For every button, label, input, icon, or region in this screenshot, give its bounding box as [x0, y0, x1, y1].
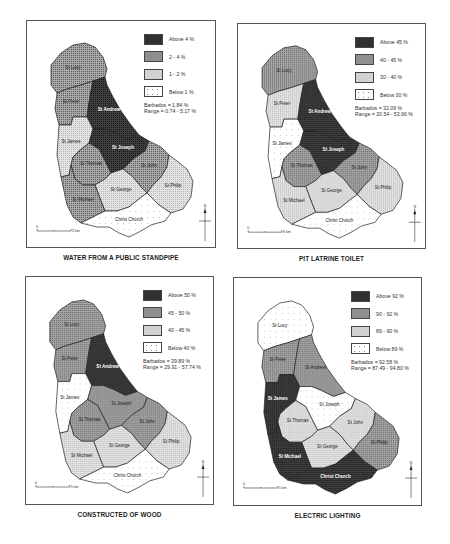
summary-stats: Barbados = 92.58 %Range = 87.49 - 94.80 …: [351, 359, 409, 372]
legend-label: 40 - 45 %: [168, 327, 190, 333]
parish-label: St Michael: [72, 197, 93, 202]
parish-label: Christ Church: [115, 217, 144, 222]
legend-item: 45 - 50 %: [143, 306, 201, 320]
summary-stats: Barbados = 32.09 %Range = 20.54 - 53.96 …: [355, 105, 413, 118]
legend-item: Above 50 %: [143, 288, 201, 302]
legend-label: 40 - 45 %: [380, 57, 402, 63]
parish-label: St Joseph: [319, 402, 340, 407]
legend-label: 45 - 50 %: [168, 310, 190, 316]
parish-label: Christ Church: [326, 218, 354, 223]
parish-label: Christ Church: [114, 473, 142, 478]
svg-text:N: N: [413, 205, 416, 209]
legend-swatch: [143, 307, 162, 318]
parish-label: St Andrew: [96, 364, 119, 369]
north-arrow-icon: N: [409, 205, 421, 242]
map-legend: Above 50 %45 - 50 %40 - 45 %Below 40 %Ba…: [143, 288, 201, 371]
parish-label: St James: [60, 395, 80, 400]
svg-text:N: N: [204, 204, 207, 208]
legend-label: Below 40 %: [168, 345, 195, 351]
north-arrow-icon: N: [197, 460, 209, 497]
parish-label: St Lucy: [65, 65, 81, 70]
parish-label: St George: [317, 444, 338, 449]
legend-swatch: [351, 308, 370, 319]
legend-item: Above 4 %: [144, 32, 196, 46]
legend-label: 90 - 92 %: [376, 311, 398, 317]
summary-stats: Barbados = 39.89 %Range = 29.91 - 57.74 …: [143, 358, 201, 371]
parish-label: St Andrew: [308, 109, 331, 114]
legend-label: Above 45 %: [380, 39, 408, 45]
legend-item: 89 - 90 %: [351, 324, 409, 338]
parish-label: St George: [111, 187, 132, 192]
legend-label: Below 89 %: [376, 346, 403, 352]
svg-text:5 km: 5 km: [279, 486, 287, 490]
parish-label: St Lucy: [64, 322, 80, 327]
svg-text:5 km: 5 km: [71, 485, 79, 489]
parish-label: St John: [141, 163, 157, 168]
value-range: Range = 87.49 - 94.80 %: [351, 365, 409, 371]
parish-label: St John: [352, 165, 368, 170]
map-caption: WATER FROM A PUBLIC STANDPIPE: [26, 254, 216, 261]
legend-label: Above 92 %: [376, 293, 404, 299]
parish-label: St James: [272, 141, 292, 146]
legend-swatch: [355, 72, 374, 83]
legend-label: Below 30 %: [380, 92, 407, 98]
legend-item: Below 40 %: [143, 341, 201, 355]
legend-item: 2 - 4 %: [144, 50, 196, 64]
parish-label: St Michael: [71, 453, 92, 458]
legend-swatch: [355, 89, 374, 100]
value-range: Range = 29.91 - 57.74 %: [143, 364, 201, 370]
legend-label: 2 - 4 %: [169, 54, 185, 60]
svg-text:N: N: [202, 460, 205, 464]
parish-label: St Peter: [274, 101, 291, 106]
svg-text:0: 0: [247, 226, 249, 230]
legend-label: 30 - 40 %: [380, 74, 402, 80]
north-arrow-icon: N: [199, 204, 211, 241]
svg-text:0: 0: [36, 225, 38, 229]
parish-label: St Lucy: [272, 323, 288, 328]
parish-label: St Joseph: [112, 145, 134, 150]
map-frame: St LucySt PeterSt AndrewSt JamesSt Josep…: [25, 276, 214, 505]
legend-swatch: [351, 343, 370, 354]
parish-label: St Joseph: [323, 147, 345, 152]
parish-label: St Thomas: [287, 418, 310, 423]
north-arrow-icon: N: [405, 461, 417, 498]
scale-bar: 05 km: [247, 226, 290, 234]
legend-swatch: [355, 37, 374, 48]
legend-item: Below 89 %: [351, 342, 409, 356]
map-frame: St LucySt PeterSt AndrewSt JamesSt Josep…: [26, 20, 216, 248]
scale-bar: 05 km: [243, 482, 287, 490]
parish-label: St Thomas: [291, 163, 314, 168]
legend-item: 90 - 92 %: [351, 307, 409, 321]
map-caption: PIT LATRINE TOILET: [237, 255, 426, 262]
legend-label: Above 50 %: [168, 292, 196, 298]
map-legend: Above 4 %2 - 4 %1 - 2 %Below 1 %Barbados…: [144, 32, 196, 115]
parish-label: St Peter: [270, 357, 287, 362]
parish-label: St Lucy: [276, 68, 292, 73]
value-range: Range = 20.54 - 53.96 %: [355, 111, 413, 117]
scale-bar: 05 km: [36, 225, 80, 233]
legend-swatch: [355, 54, 374, 65]
legend-item: Above 45 %: [355, 35, 413, 49]
legend-item: 1 - 2 %: [144, 67, 196, 81]
map-legend: Above 92 %90 - 92 %89 - 90 %Below 89 %Ba…: [351, 289, 409, 372]
parish-label: St James: [268, 396, 288, 401]
legend-label: 1 - 2 %: [169, 71, 185, 77]
summary-stats: Barbados = 1.84 %Range = 0.74 - 5.17 %: [144, 102, 196, 115]
parish-label: St Joseph: [111, 401, 132, 406]
legend-item: Below 1 %: [144, 85, 196, 99]
legend-swatch: [143, 342, 162, 353]
legend-swatch: [144, 86, 163, 97]
legend-item: 40 - 45 %: [143, 323, 201, 337]
parish-label: St Philip: [371, 440, 388, 445]
legend-swatch: [144, 69, 163, 80]
parish-label: St John: [348, 420, 364, 425]
parish-label: St Thomas: [80, 161, 103, 166]
legend-label: Above 4 %: [169, 36, 194, 42]
legend-item: 40 - 45 %: [355, 53, 413, 67]
legend-label: Below 1 %: [169, 89, 194, 95]
value-range: Range = 0.74 - 5.17 %: [144, 108, 196, 114]
parish-label: St George: [109, 443, 130, 448]
parish-label: St Philip: [375, 185, 392, 190]
parish-label: St Michael: [278, 454, 301, 459]
parish-label: Christ Church: [320, 474, 351, 479]
